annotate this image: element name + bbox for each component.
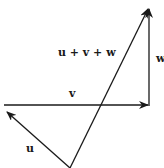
label-sum: u + v + w [58,46,116,59]
label-u: u [26,142,34,155]
label-w: w [155,52,164,65]
label-v: v [68,87,76,100]
vector-addition-diagram: u + v + w v w u [0,0,164,168]
vector-u-arrow [7,112,70,168]
vector-sum-arrow [70,9,148,168]
